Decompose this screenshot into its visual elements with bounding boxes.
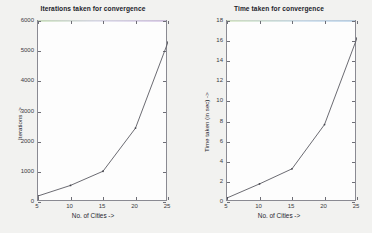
y-tick-label: 1000 bbox=[0, 168, 34, 174]
x-axis-caption-time: No. of Cities -> bbox=[186, 212, 372, 219]
data-point-marker bbox=[356, 37, 357, 39]
x-tick-label: 5 bbox=[35, 203, 38, 209]
y-tick-label: 4 bbox=[186, 158, 223, 164]
y-tick-label: 12 bbox=[186, 77, 223, 83]
data-point-marker bbox=[291, 168, 293, 170]
x-axis-caption-iterations: No. of Cities -> bbox=[0, 212, 186, 219]
series-line bbox=[38, 42, 168, 196]
x-tick-label: 10 bbox=[255, 203, 262, 209]
y-tick-label: 6000 bbox=[0, 17, 34, 23]
x-tick-mark bbox=[357, 21, 358, 24]
x-tick-label: 20 bbox=[131, 203, 138, 209]
x-tick-mark bbox=[168, 21, 169, 24]
y-tick-label: 14 bbox=[186, 57, 223, 63]
y-tick-label: 0 bbox=[0, 198, 34, 204]
plot-canvas-iterations bbox=[38, 21, 166, 200]
data-point-marker bbox=[167, 41, 168, 43]
y-axis-caption-time: Time taken (in sec) -> bbox=[203, 92, 210, 152]
y-tick-label: 2 bbox=[186, 178, 223, 184]
x-tick-label: 15 bbox=[288, 203, 295, 209]
data-point-marker bbox=[70, 185, 72, 187]
data-point-marker bbox=[102, 170, 104, 172]
y-tick-label: 5000 bbox=[0, 47, 34, 53]
series-plot bbox=[38, 21, 168, 202]
figure-iterations: Iterations taken for convergence 5101520… bbox=[0, 0, 186, 233]
x-tick-label: 25 bbox=[353, 203, 360, 209]
x-tick-label: 15 bbox=[99, 203, 106, 209]
x-tick-mark bbox=[168, 197, 169, 200]
x-tick-label: 10 bbox=[66, 203, 73, 209]
plot-canvas-time bbox=[227, 21, 355, 200]
y-tick-label: 4000 bbox=[0, 77, 34, 83]
figure-time: Time taken for convergence 510152025 024… bbox=[186, 0, 372, 233]
x-tick-label: 20 bbox=[320, 203, 327, 209]
series-line bbox=[227, 38, 357, 198]
chart-title-time: Time taken for convergence bbox=[186, 5, 372, 12]
x-tick-label: 5 bbox=[224, 203, 227, 209]
data-point-marker bbox=[135, 127, 137, 129]
plot-area-time bbox=[226, 20, 356, 201]
x-tick-mark bbox=[357, 197, 358, 200]
plot-area-iterations bbox=[37, 20, 167, 201]
chart-title-iterations: Iterations taken for convergence bbox=[0, 5, 186, 12]
y-tick-label: 18 bbox=[186, 17, 223, 23]
series-plot bbox=[227, 21, 357, 202]
data-point-marker bbox=[259, 183, 261, 185]
data-point-marker bbox=[324, 124, 326, 126]
y-axis-caption-iterations: Iterations -> bbox=[16, 107, 23, 140]
y-tick-label: 0 bbox=[186, 198, 223, 204]
figure-pair: Iterations taken for convergence 5101520… bbox=[0, 0, 372, 233]
x-tick-label: 25 bbox=[164, 203, 171, 209]
y-tick-label: 16 bbox=[186, 37, 223, 43]
